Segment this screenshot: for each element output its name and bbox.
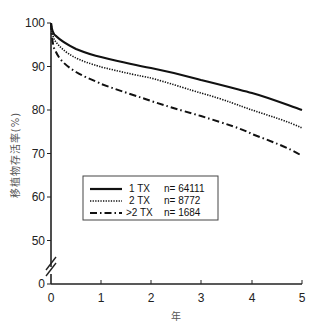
y-tick-label: 50	[32, 234, 46, 248]
legend-label: >2 TX	[126, 207, 153, 218]
legend: 1 TX n= 64111 2 TX n= 8772 >2 TX n= 1684	[83, 176, 218, 220]
legend-label: 1 TX	[129, 183, 150, 194]
series-gt2tx-line	[51, 23, 302, 156]
x-tick-labels: 0 1 2 3 4 5	[48, 291, 306, 305]
x-tick-label: 3	[198, 291, 205, 305]
x-tick-label: 1	[98, 291, 105, 305]
y-tick-label: 90	[32, 60, 46, 74]
series-1tx-line	[51, 23, 302, 110]
legend-label: 2 TX	[129, 195, 150, 206]
legend-n: n= 8772	[164, 195, 201, 206]
y-tick-label: 70	[32, 147, 46, 161]
legend-n: n= 1684	[164, 207, 201, 218]
x-tick-label: 5	[299, 291, 306, 305]
y-tick-label: 60	[32, 190, 46, 204]
y-tick-label: 100	[25, 16, 45, 30]
survival-chart: 100 90 80 70 60 50 0 0 1 2 3 4 5 年 移植物存活…	[0, 0, 322, 332]
legend-n: n= 64111	[164, 183, 205, 194]
x-axis-title: 年	[171, 310, 181, 322]
y-tick-label: 80	[32, 103, 46, 117]
y-axis-title: 移植物存活率(%)	[9, 112, 21, 198]
y-tick-label: 0	[38, 277, 45, 291]
x-tick-label: 4	[249, 291, 256, 305]
x-tick-label: 0	[48, 291, 55, 305]
series-2tx-line	[51, 23, 302, 128]
y-tick-labels: 100 90 80 70 60 50 0	[25, 16, 45, 291]
x-tick-label: 2	[148, 291, 155, 305]
